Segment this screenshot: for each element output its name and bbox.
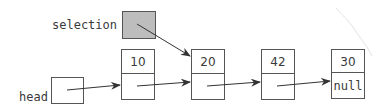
list-node: 30 null [332,50,365,99]
page-artifact [336,8,372,56]
list-node: 42 [262,50,295,100]
list-node: 10 [122,50,155,100]
node-null-pointer: null [334,79,363,93]
node-value: 30 [340,55,355,69]
node-value: 42 [270,55,285,69]
head-pointer-box [52,78,84,104]
selection-label: selection [52,18,117,32]
node-value: 10 [130,55,145,69]
node-value: 20 [200,55,215,69]
linked-list-diagram: selection head 10 20 42 30 null [0,0,387,111]
head-label: head [19,90,48,104]
list-node: 20 [192,50,225,100]
